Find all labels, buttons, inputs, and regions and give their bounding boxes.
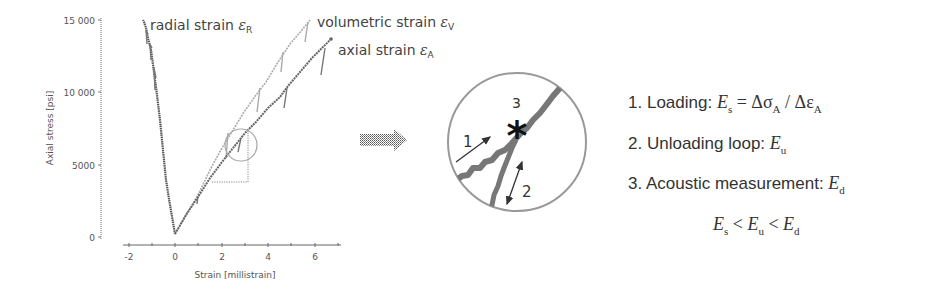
legend-item-loading: 1. Loading: Es = ΔσA / ΔεA [628, 85, 845, 126]
y-tick-15000: 15 000 [64, 16, 96, 26]
x-axis: -2 0 2 4 6 Strain [millistrain] [123, 243, 341, 280]
x-tick-neg2: -2 [125, 252, 134, 262]
axial-strain-label: axial strain εA [338, 42, 435, 60]
x-tick-2: 2 [219, 252, 225, 262]
x-tick-6: 6 [312, 252, 318, 262]
arrow-right-icon [360, 129, 407, 151]
label-unloading: 2 [522, 183, 532, 201]
radial-strain-label: radial strain εR [150, 17, 252, 35]
asterisk-icon: * [507, 113, 528, 159]
x-axis-label: Strain [millistrain] [195, 270, 276, 280]
modulus-inequality: Es < Eu < Ed [628, 207, 845, 248]
y-tick-10000: 10 000 [64, 88, 96, 98]
y-tick-0: 0 [89, 233, 95, 243]
y-axis-label: Axial stress [psi] [45, 91, 55, 165]
y-axis: 15 000 10 000 5000 0 Axial stress [psi] [45, 16, 101, 243]
label-loading: 1 [463, 133, 473, 151]
modulus-legend: 1. Loading: Es = ΔσA / ΔεA 2. Unloading … [628, 85, 845, 247]
label-measurement-point: 3 [512, 95, 521, 111]
radial-strain-curve [143, 20, 175, 234]
legend-item-unloading: 2. Unloading loop: Eu [628, 126, 845, 167]
legend-item-acoustic: 3. Acoustic measurement: Ed [628, 166, 845, 207]
volumetric-strain-label: volumetric strain εV [317, 14, 455, 32]
y-tick-5000: 5000 [72, 161, 95, 171]
x-tick-4: 4 [265, 252, 271, 262]
zoom-region-indicator [212, 129, 257, 182]
x-tick-0: 0 [172, 252, 178, 262]
